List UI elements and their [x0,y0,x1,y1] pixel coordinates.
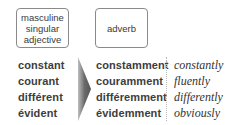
adverb-word: évidemment [96,105,169,121]
header-adjective-line-3: adjective [21,34,64,45]
adjective-word: constant [18,57,65,73]
arrow-right-icon [78,57,91,121]
adjective-word: courant [18,73,65,89]
adjective-word: différent [18,89,65,105]
header-adjective-line-2: singular [21,23,64,34]
english-translation-column: constantly fluently differently obviousl… [174,57,223,121]
header-adverb: adverb [95,8,148,48]
header-adverb-label: adverb [107,23,136,34]
adjective-column: constant courant différent évident [18,57,65,121]
english-translation: differently [174,89,223,105]
english-translation: constantly [174,57,223,73]
header-masculine-singular-adjective: masculine singular adjective [16,8,69,48]
english-translation: fluently [174,73,223,89]
english-translation: obviously [174,105,223,121]
dotted-separator [166,57,167,121]
adverb-word: couramment [96,73,169,89]
header-adjective-line-1: masculine [21,12,64,23]
adverb-word: différemment [96,89,169,105]
adverb-word: constamment [96,57,169,73]
adverb-column: constamment couramment différemment évid… [96,57,169,121]
adjective-word: évident [18,105,65,121]
